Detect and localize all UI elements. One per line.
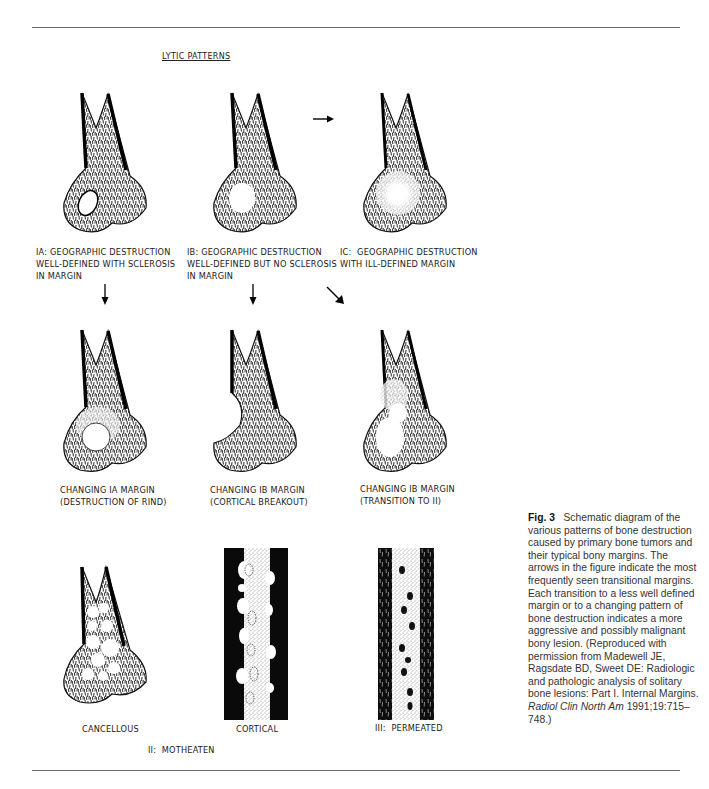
label-ib: IB: GEOGRAPHIC DESTRUCTION WELL-DEFINED …: [187, 246, 337, 282]
label-motheaten-group: II: MOTHEATEN: [148, 744, 215, 756]
caption-journal: Radiol Clin North Am: [528, 701, 624, 712]
bone-ia-changing-destruction-of-rind: [60, 325, 150, 473]
arrow-down-right-icon: [326, 286, 346, 306]
bone-ii-motheaten-cortical: [224, 548, 288, 720]
figure-title: LYTIC PATTERNS: [162, 52, 230, 61]
caption-text: Schematic diagram of the various pattern…: [528, 512, 699, 699]
label-ic: IC: GEOGRAPHIC DESTRUCTION WITH ILL-DEFI…: [340, 246, 478, 270]
arrow-down-icon: [248, 284, 258, 306]
bone-ic-geographic-ill-defined: [360, 88, 450, 233]
bone-ia-geographic-sclerosis: [60, 88, 150, 233]
figure-caption: Fig. 3 Schematic diagram of the various …: [528, 512, 700, 726]
arrow-right-icon: [312, 114, 336, 124]
label-ib-changing-transition: CHANGING IB MARGIN (TRANSITION TO II): [360, 483, 455, 507]
bone-ib-geographic-no-sclerosis: [210, 88, 300, 233]
top-rule: [32, 27, 680, 28]
label-ia: IA: GEOGRAPHIC DESTRUCTION WELL-DEFINED …: [36, 246, 175, 282]
bone-ib-changing-cortical-breakout: [210, 325, 300, 473]
label-ia-changing: CHANGING IA MARGIN (DESTRUCTION OF RIND): [60, 484, 167, 508]
bone-ib-changing-transition-to-ii: [360, 325, 450, 473]
label-ib-changing-cortical: CHANGING IB MARGIN (CORTICAL BREAKOUT): [210, 484, 308, 508]
arrow-down-icon: [100, 284, 110, 306]
bone-ii-motheaten-cancellous: [60, 564, 150, 704]
caption-fig-label: Fig. 3: [528, 512, 555, 523]
label-permeated: III: PERMEATED: [375, 722, 443, 734]
bottom-rule: [32, 770, 680, 771]
label-cancellous: CANCELLOUS: [82, 723, 139, 735]
label-cortical: CORTICAL: [236, 723, 278, 735]
bone-iii-permeated: [378, 548, 434, 720]
